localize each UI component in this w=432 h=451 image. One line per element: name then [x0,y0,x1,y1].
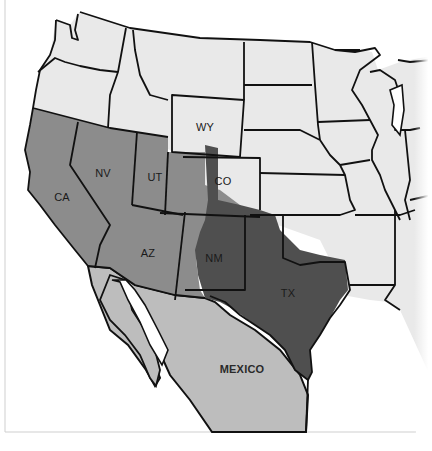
label-co: CO [215,175,232,187]
gulf-coast [306,380,308,432]
right-edge-fade [414,0,432,451]
label-nm: NM [205,252,223,264]
label-mexico: MEXICO [220,363,265,375]
us-southwest-map [0,0,432,451]
label-ut: UT [147,171,162,183]
label-nv: NV [95,167,111,179]
label-ca: CA [54,191,70,203]
map-frame: WY CO CA NV UT AZ NM TX MEXICO [0,0,432,451]
label-az: AZ [141,247,155,259]
label-tx: TX [281,287,295,299]
label-wy: WY [196,121,214,133]
